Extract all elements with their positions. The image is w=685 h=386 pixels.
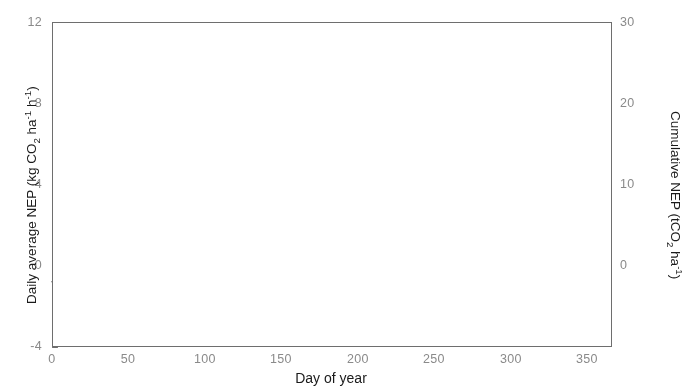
plot-area-frame	[52, 22, 612, 347]
xtick-250: 250	[423, 352, 445, 366]
ytick-right-20: 20	[620, 96, 660, 110]
y-left-sup6: -1	[22, 91, 33, 100]
y-axis-title-right: Cumulative NEP (tCO2 ha-1)	[665, 65, 685, 325]
y-axis-title-left: Daily average NEP (kg CO2 ha-1 h-1)	[22, 65, 42, 325]
xtick-0: 0	[48, 352, 55, 366]
ytick-left-neg4: -4	[0, 339, 42, 353]
y-left-part7: )	[24, 86, 39, 91]
ytick-right-10: 10	[620, 177, 660, 191]
xtick-200: 200	[347, 352, 369, 366]
y-right-part3: ha	[668, 247, 683, 266]
xtick-50: 50	[121, 352, 136, 366]
y-right-part5: )	[668, 275, 683, 280]
xtick-100: 100	[194, 352, 216, 366]
x-axis-title: Day of year	[295, 370, 367, 386]
y-right-part1: Cumulative NEP (tCO	[668, 111, 683, 242]
ytick-left-12: 12	[0, 15, 42, 29]
xtick-150: 150	[270, 352, 292, 366]
y-left-part5: h	[24, 99, 39, 110]
y-left-part3: ha	[24, 119, 39, 138]
ytick-right-0: 0	[620, 258, 660, 272]
y-left-sup4: -1	[22, 111, 33, 120]
xtick-300: 300	[500, 352, 522, 366]
y-left-sub2: 2	[31, 138, 42, 143]
y-left-part1: Daily average NEP (kg CO	[24, 144, 39, 304]
ytick-right-30: 30	[620, 15, 660, 29]
xtick-350: 350	[576, 352, 598, 366]
y-right-sup4: -1	[674, 266, 685, 275]
